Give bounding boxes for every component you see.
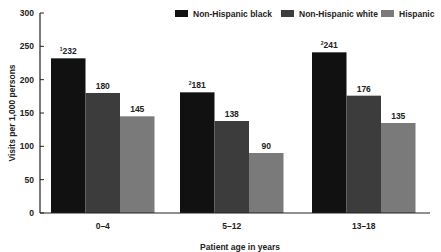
x-tick-label: 13–18 bbox=[352, 221, 376, 231]
bar-value-label: 138 bbox=[225, 109, 239, 119]
bar bbox=[249, 153, 284, 213]
x-axis-label: Patient age in years bbox=[200, 242, 280, 252]
x-tick-label: 5–12 bbox=[222, 221, 241, 231]
y-tick-label: 50 bbox=[25, 175, 35, 185]
legend-label: Non-Hispanic black bbox=[193, 9, 272, 19]
bar bbox=[347, 96, 382, 213]
y-tick-label: 300 bbox=[20, 8, 34, 18]
bar-value-label: 2241 bbox=[321, 40, 338, 50]
bar bbox=[120, 116, 155, 213]
legend-label: Hispanic bbox=[399, 9, 435, 19]
y-tick-label: 100 bbox=[20, 141, 34, 151]
y-axis-label: Visits per 1,000 persons bbox=[7, 64, 17, 161]
bar bbox=[381, 123, 416, 213]
legend-swatch bbox=[381, 10, 394, 17]
bar-value-label: 135 bbox=[391, 111, 405, 121]
bars: 12321801452181138902241176135 bbox=[51, 40, 416, 213]
y-tick-label: 250 bbox=[20, 41, 34, 51]
bar bbox=[51, 58, 86, 213]
y-tick-label: 0 bbox=[29, 208, 34, 218]
bar bbox=[215, 121, 250, 213]
x-axis: 0–45–1213–18 bbox=[40, 213, 430, 231]
bar-chart: 050100150200250300 123218014521811389022… bbox=[0, 0, 441, 252]
bar-value-label: 1232 bbox=[60, 46, 77, 56]
legend-swatch bbox=[175, 10, 188, 17]
bar bbox=[180, 92, 215, 213]
y-axis: 050100150200250300 bbox=[20, 8, 44, 218]
legend: Non-Hispanic blackNon-Hispanic whiteHisp… bbox=[175, 9, 435, 19]
legend-swatch bbox=[281, 10, 294, 17]
legend-label: Non-Hispanic white bbox=[299, 9, 378, 19]
x-tick-label: 0–4 bbox=[96, 221, 110, 231]
bar-value-label: 176 bbox=[357, 84, 371, 94]
chart-canvas: 050100150200250300 123218014521811389022… bbox=[0, 0, 441, 252]
bar-value-label: 180 bbox=[96, 81, 110, 91]
bar-value-label: 145 bbox=[130, 104, 144, 114]
bar bbox=[312, 52, 347, 213]
bar bbox=[86, 93, 121, 213]
bar-value-label: 2181 bbox=[189, 80, 206, 90]
y-tick-label: 150 bbox=[20, 108, 34, 118]
y-tick-label: 200 bbox=[20, 75, 34, 85]
bar-value-label: 90 bbox=[262, 141, 272, 151]
